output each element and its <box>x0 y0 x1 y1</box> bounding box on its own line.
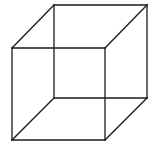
cube-edge-front-bottom-left-to-back-bottom-left <box>12 98 54 140</box>
cube-edge-front-top-right-to-back-top-right <box>105 5 147 48</box>
cube-diagram <box>0 0 154 149</box>
cube-edge-front-top-left-to-back-top-left <box>12 5 54 48</box>
cube-edge-front-bottom-right-to-back-bottom-right <box>105 98 147 140</box>
wireframe-cube <box>0 0 154 149</box>
